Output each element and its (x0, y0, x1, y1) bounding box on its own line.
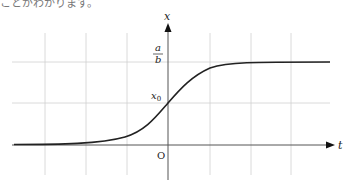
logistic-curve-diagram: x t O a b x0 (0, 0, 343, 181)
axes (12, 23, 335, 180)
grid (12, 33, 330, 175)
x0-label: x0 (151, 90, 161, 103)
x-axis-label: t (338, 139, 343, 152)
origin-label: O (157, 150, 165, 161)
ab-denominator: b (155, 54, 161, 65)
ab-numerator: a (155, 42, 161, 53)
x0-subscript: 0 (157, 95, 161, 103)
y-axis-arrow-icon (165, 23, 172, 32)
y-axis-label: x (164, 10, 171, 23)
x-axis-arrow-icon (326, 142, 335, 149)
